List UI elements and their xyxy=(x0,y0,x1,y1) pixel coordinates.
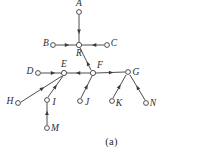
node-C[interactable] xyxy=(105,43,110,48)
node-E[interactable] xyxy=(61,70,66,75)
node-K[interactable] xyxy=(110,99,115,104)
arrowhead-H-to-E xyxy=(39,87,44,91)
node-G[interactable] xyxy=(126,70,131,75)
arrowhead-D-to-E xyxy=(51,71,55,75)
arrowhead-B-to-R xyxy=(65,43,69,47)
node-J[interactable] xyxy=(78,99,83,104)
node-label-R: R xyxy=(75,48,82,58)
arrowhead-F-to-E xyxy=(76,71,80,75)
node-label-B: B xyxy=(43,38,49,48)
nodes-layer xyxy=(16,10,149,131)
node-label-N: N xyxy=(149,98,157,108)
node-label-F: F xyxy=(96,60,103,70)
node-label-G: G xyxy=(133,67,140,77)
arrowhead-I-to-E xyxy=(53,85,57,90)
node-label-C: C xyxy=(111,38,118,48)
node-H[interactable] xyxy=(16,101,21,106)
figure-container: ABRCDEFGHIJKNM (a) xyxy=(0,0,223,161)
node-label-I: I xyxy=(51,97,56,107)
node-labels-layer: ABRCDEFGHIJKNM xyxy=(6,0,157,133)
node-I[interactable] xyxy=(45,98,50,103)
node-D[interactable] xyxy=(36,71,41,76)
node-label-D: D xyxy=(26,66,34,76)
node-A[interactable] xyxy=(77,10,82,15)
node-F[interactable] xyxy=(90,70,95,75)
figure-caption: (a) xyxy=(0,136,223,147)
node-label-E: E xyxy=(60,59,67,69)
arrowhead-A-to-R xyxy=(77,30,81,34)
node-label-A: A xyxy=(75,0,82,8)
node-label-J: J xyxy=(85,97,90,107)
node-R[interactable] xyxy=(76,42,81,47)
arrowhead-F-to-G xyxy=(109,71,113,75)
node-label-H: H xyxy=(6,96,15,106)
node-label-K: K xyxy=(115,98,123,108)
node-label-M: M xyxy=(50,123,60,133)
arrowhead-C-to-R xyxy=(92,43,96,47)
node-N[interactable] xyxy=(144,101,149,106)
arrowhead-M-to-I xyxy=(45,111,49,115)
node-B[interactable] xyxy=(51,43,56,48)
node-M[interactable] xyxy=(45,126,50,131)
